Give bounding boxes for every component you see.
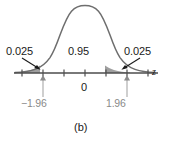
central-area-label: 0.95 [68,46,89,57]
right-critical-value-marker [124,75,130,97]
axis-zero-tick-label: 0 [81,82,87,93]
left-tail-annotation-arrow [22,58,41,70]
right-critical-value-label: 1.96 [106,98,126,109]
left-tail-area-label: 0.025 [6,46,33,57]
figure-caption: (b) [74,122,87,133]
normal-curve [15,6,155,73]
axis-variable-label: z [152,67,156,77]
right-tail-area-label: 0.025 [124,46,151,57]
normal-distribution-figure: 0.025 0.95 0.025 0 z −1.96 1.96 (b) [0,0,171,142]
left-critical-value-label: −1.96 [21,98,47,109]
left-critical-value-marker [40,75,46,97]
